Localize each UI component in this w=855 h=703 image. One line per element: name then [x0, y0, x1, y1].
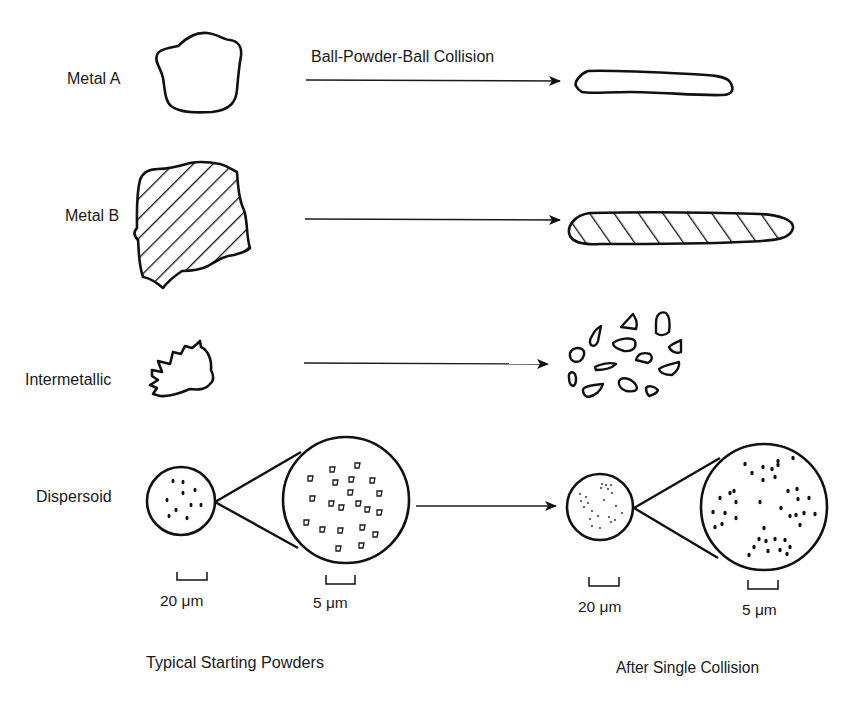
diagram-canvas: Metal A Metal B Intermetallic Dispersoid… [0, 0, 855, 703]
caption-starting-powders: Typical Starting Powders [146, 654, 324, 671]
caption-after-collision: After Single Collision [616, 659, 759, 676]
dispersoid-zoom-after [701, 444, 827, 570]
arrow-metal-b [305, 219, 560, 220]
scale-label-after-small: 20 μm [578, 598, 621, 615]
scale-label-before-zoom: 5 μm [313, 594, 348, 611]
dispersoid-particle-after [567, 474, 633, 540]
scale-bar-before-small [177, 572, 207, 580]
metal-b-particle-before [134, 162, 250, 288]
scale-label-before-small: 20 μm [160, 592, 203, 609]
scale-bar-before-zoom [326, 575, 355, 584]
scale-label-after-zoom: 5 μm [742, 601, 777, 618]
metal-a-particle-before [156, 33, 241, 113]
process-label: Ball-Powder-Ball Collision [311, 48, 494, 65]
scale-bar-after-small [589, 577, 619, 586]
row-label-metal-b: Metal B [65, 207, 119, 224]
scale-bar-after-zoom [748, 580, 778, 589]
metal-a-particle-after [576, 71, 733, 95]
row-label-metal-a: Metal A [67, 70, 121, 87]
intermetallic-fragments-after [569, 312, 681, 397]
arrow-metal-a [306, 80, 560, 81]
intermetallic-particle-before [150, 341, 213, 396]
metal-b-particle-after [569, 212, 793, 244]
dispersoid-zoom-before [283, 437, 409, 563]
dispersoid-particle-before [147, 467, 215, 535]
arrow-intermetallic [304, 363, 548, 364]
row-label-intermetallic: Intermetallic [25, 371, 111, 388]
row-label-dispersoid: Dispersoid [36, 488, 112, 505]
